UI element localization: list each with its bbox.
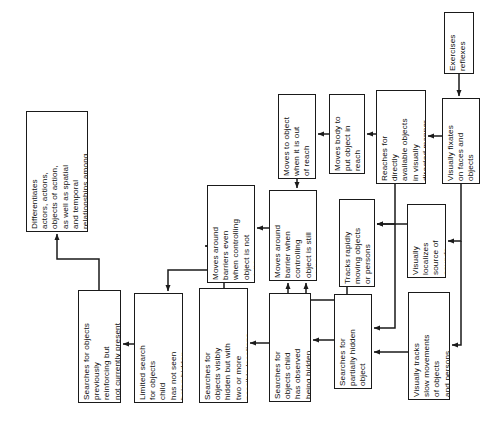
node-label: Moves to object when it is out of reach [279, 95, 313, 179]
node-label: Searches for objects child has observed … [270, 294, 311, 402]
node-visually-localizes-sounds[interactable]: Visually localizes source of sounds [407, 204, 446, 278]
flowchart-canvas: Differentiates actors, actions, objects … [0, 0, 496, 448]
node-tracks-rapidly-moving[interactable]: Tracks rapidly moving objects or persons [339, 199, 375, 287]
node-label: Visually localizes source of sounds [408, 205, 446, 278]
node-label: Searches for objects visibly hidden but … [200, 289, 248, 403]
node-label: Tracks rapidly moving objects or persons [340, 200, 374, 287]
node-searches-observed-hidden[interactable]: Searches for objects child has observed … [269, 293, 311, 402]
node-searches-visibly-hidden-two-locations[interactable]: Searches for objects visibly hidden but … [199, 288, 248, 403]
node-visually-tracks-slow[interactable]: Visually tracks slow movements of object… [408, 292, 450, 400]
node-limited-search[interactable]: Limited search for objects child has not… [134, 293, 183, 403]
node-moves-body-put-object-in-reach[interactable]: Moves body to put object in reach [329, 94, 365, 174]
node-label: Visually fixates on faces and objects [443, 99, 477, 184]
node-exercises-reflexes[interactable]: Exercises reflexes [444, 12, 474, 74]
node-searches-partially-hidden[interactable]: Searches for partially hidden object [334, 294, 372, 389]
node-label: Moves body to put object in reach [330, 95, 364, 174]
node-searches-previously-reinforcing[interactable]: Searches for objects previously reinforc… [78, 290, 121, 403]
edge-fixates-to-slow-tracks [452, 241, 461, 345]
node-label: Reaches for directly available objects i… [377, 91, 426, 184]
node-label: Moves around barriers even when controll… [208, 186, 255, 283]
node-label: Exercises reflexes [445, 13, 468, 74]
node-moves-to-object-out-of-reach[interactable]: Moves to object when it is out of reach [278, 94, 316, 179]
node-moves-around-barriers-not-visible[interactable]: Moves around barriers even when controll… [207, 185, 255, 283]
node-moves-around-barrier-still-visible[interactable]: Moves around barrier when controlling ob… [269, 190, 317, 281]
node-label: Searches for partially hidden object [335, 295, 369, 389]
node-reaches-for-directly-available[interactable]: Reaches for directly available objects i… [376, 90, 426, 184]
node-visually-fixates-faces[interactable]: Visually fixates on faces and objects [442, 98, 480, 184]
node-label: Searches for objects previously reinforc… [79, 291, 121, 403]
node-label: Moves around barrier when controlling ob… [270, 191, 317, 281]
edge-fixates-to-localizes [448, 184, 461, 241]
node-label: Visually tracks slow movements of object… [409, 293, 450, 400]
edge-previously-reinforcing-to-differentiates [57, 234, 99, 290]
node-label: Limited search for objects child has not… [135, 294, 183, 403]
node-label: Differentiates actors, actions, objects … [27, 112, 88, 232]
edge-reaches-to-partially-hidden [374, 224, 395, 328]
node-differentiates[interactable]: Differentiates actors, actions, objects … [26, 111, 88, 232]
edge-reaches-to-tracks-rapidly [377, 184, 395, 224]
